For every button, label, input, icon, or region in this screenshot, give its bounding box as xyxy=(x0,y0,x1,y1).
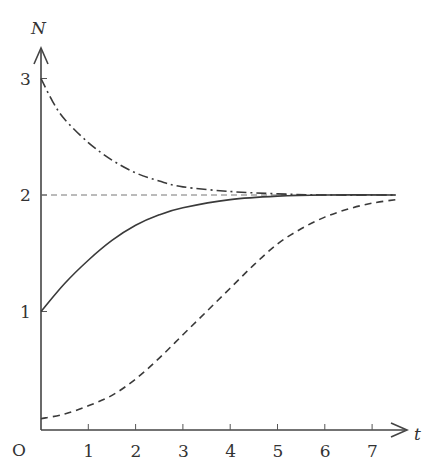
series-line-dash-dot xyxy=(41,79,396,196)
series-line-solid xyxy=(41,195,396,312)
y-axis-label: N xyxy=(30,18,47,38)
x-tick-label: 4 xyxy=(225,441,236,461)
axes xyxy=(34,48,407,437)
x-tick-label: 3 xyxy=(178,441,189,461)
x-tick-label: 1 xyxy=(83,441,94,461)
origin-label: O xyxy=(12,440,26,460)
x-tick-label: 7 xyxy=(367,441,378,461)
logistic-chart: 1234567123 N t O xyxy=(0,0,434,473)
x-tick-label: 6 xyxy=(320,441,331,461)
y-tick-label: 3 xyxy=(20,69,31,89)
series-group xyxy=(41,79,396,419)
series-line-dashed xyxy=(41,200,396,419)
x-axis-label: t xyxy=(414,424,421,444)
y-tick-label: 1 xyxy=(20,302,31,322)
x-tick-label: 2 xyxy=(131,441,142,461)
x-tick-label: 5 xyxy=(273,441,284,461)
tick-labels: 1234567123 xyxy=(20,69,378,462)
y-tick-label: 2 xyxy=(20,185,31,205)
tick-marks xyxy=(41,79,372,431)
